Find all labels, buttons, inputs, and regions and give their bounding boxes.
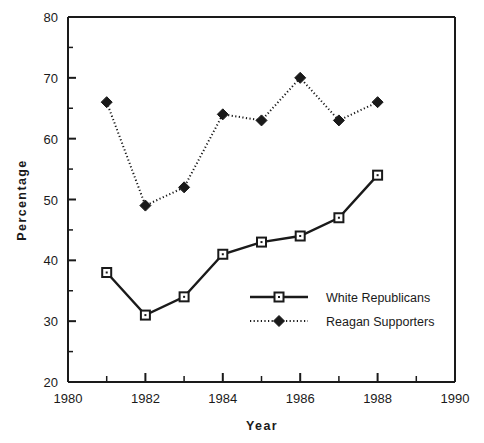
legend-label: White Republicans <box>326 291 430 305</box>
x-tick-label: 1982 <box>131 391 160 406</box>
square-marker-center <box>144 314 146 316</box>
y-tick-label: 80 <box>44 10 58 25</box>
diamond-marker <box>101 97 112 108</box>
y-tick-label: 20 <box>44 375 58 390</box>
y-axis-ticks <box>68 17 76 382</box>
diamond-marker <box>295 72 306 83</box>
square-marker-center <box>222 253 224 255</box>
y-tick-label: 40 <box>44 253 58 268</box>
diamond-marker <box>333 115 344 126</box>
y-tick-label: 70 <box>44 71 58 86</box>
series-layer <box>101 72 383 319</box>
x-tick-label: 1984 <box>208 391 237 406</box>
line-chart: 20304050607080 198019821984198619881990 … <box>0 0 484 443</box>
square-marker-center <box>377 174 379 176</box>
y-tick-label: 50 <box>44 193 58 208</box>
x-axis-title: Year <box>246 419 278 433</box>
x-tick-label: 1980 <box>54 391 83 406</box>
diamond-marker <box>256 115 267 126</box>
square-marker-center <box>338 217 340 219</box>
legend-label: Reagan Supporters <box>326 315 434 329</box>
square-marker-center <box>299 235 301 237</box>
data-series <box>101 72 383 211</box>
diamond-marker <box>274 316 285 327</box>
x-tick-label: 1986 <box>286 391 315 406</box>
x-axis-ticks <box>68 373 455 382</box>
square-marker-center <box>278 296 280 298</box>
diamond-marker <box>140 200 151 211</box>
y-tick-label: 60 <box>44 132 58 147</box>
x-axis-tick-labels: 198019821984198619881990 <box>54 391 470 406</box>
y-axis-tick-labels: 20304050607080 <box>44 10 58 390</box>
series-line <box>107 78 378 206</box>
diamond-marker <box>179 182 190 193</box>
square-marker-center <box>183 296 185 298</box>
diamond-marker <box>372 97 383 108</box>
diamond-marker <box>217 109 228 120</box>
square-marker-center <box>261 241 263 243</box>
x-tick-label: 1990 <box>441 391 470 406</box>
y-tick-label: 30 <box>44 314 58 329</box>
square-marker-center <box>106 272 108 274</box>
chart-figure: 20304050607080 198019821984198619881990 … <box>0 0 484 443</box>
chart-legend: White RepublicansReagan Supporters <box>250 291 434 329</box>
y-axis-title: Percentage <box>15 159 29 240</box>
x-tick-label: 1988 <box>363 391 392 406</box>
